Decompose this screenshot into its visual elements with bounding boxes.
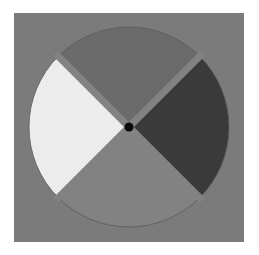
segmented-disk-figure <box>0 0 259 255</box>
center-dot <box>125 123 134 132</box>
figure-canvas <box>0 0 259 255</box>
